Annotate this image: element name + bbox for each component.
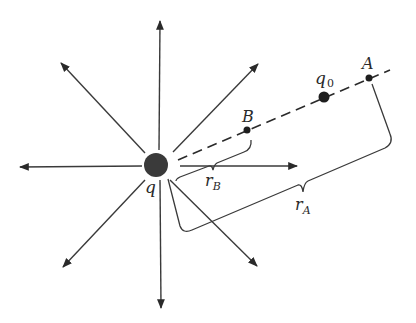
field-line-up-arrow-icon [159, 21, 160, 150]
diagram-canvas: q q0 A B rB rA [0, 0, 416, 323]
field-line-left-arrow-icon [20, 166, 142, 167]
label-B: B [241, 107, 254, 126]
label-rB: rB [205, 171, 221, 193]
source-charge-q [144, 153, 168, 177]
field-diagram: q q0 A B rB rA [0, 0, 416, 323]
point-B [244, 127, 251, 134]
rA-brace [168, 84, 391, 231]
label-q: q [145, 177, 156, 197]
test-charge-q0 [319, 92, 330, 103]
rB-brace [176, 140, 251, 181]
point-A [366, 75, 373, 82]
label-A: A [360, 54, 374, 73]
field-line-up-left-arrow-icon [61, 63, 145, 153]
label-rA: rA [295, 195, 311, 217]
radial-dashed-line [178, 70, 390, 160]
field-line-down-left-arrow-icon [63, 180, 145, 267]
label-q0: q0 [315, 68, 334, 90]
field-line-down-arrow-icon [160, 180, 161, 308]
